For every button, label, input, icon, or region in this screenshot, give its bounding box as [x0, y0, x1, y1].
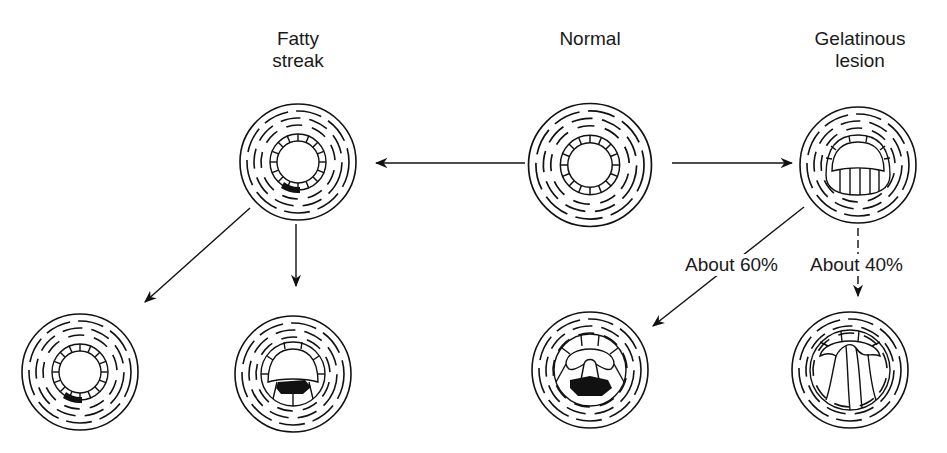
about-60-label: About 60% — [683, 254, 780, 276]
gelatinous-outcome-60-icon — [532, 312, 648, 428]
arrows — [145, 163, 858, 326]
gelatinous-lesion-label: Gelatinous lesion — [800, 28, 920, 72]
fatty-streak-label: Fatty streak — [248, 28, 348, 72]
normal-label: Normal — [540, 28, 640, 50]
fatty-streak-outcome-2-icon — [235, 316, 351, 432]
about-40-label: About 40% — [808, 254, 905, 276]
gelatinous-lesion-vessel-icon — [800, 107, 916, 223]
gelatinous-outcome-40-icon — [792, 312, 908, 428]
fatty-streak-vessel-icon — [240, 104, 356, 220]
arrow-fatty-to-outcome-1 — [145, 208, 250, 302]
fatty-streak-outcome-1-icon — [22, 314, 138, 430]
normal-vessel-icon — [529, 104, 652, 227]
